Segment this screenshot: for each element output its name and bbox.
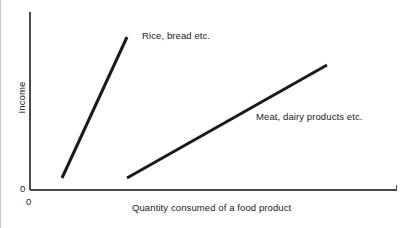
series-annotation-meat-dairy: Meat, dairy products etc. [256,111,363,122]
y-axis-label: Income [16,68,27,128]
chart-figure: Income Quantity consumed of a food produ… [0,0,417,228]
y-axis-origin-label: 0 [20,183,25,194]
x-axis-origin-label: 0 [26,196,31,207]
x-axis-label: Quantity consumed of a food product [132,202,291,213]
series-annotation-rice-bread: Rice, bread etc. [142,30,210,41]
series-line-rice-bread [62,37,127,178]
